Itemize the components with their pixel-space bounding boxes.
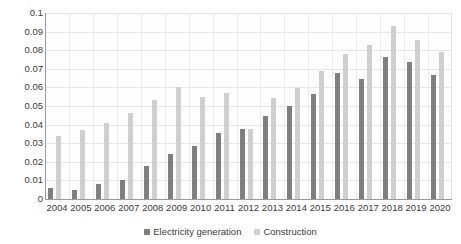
bar-chart: 0.10.090.080.070.060.050.040.030.020.010… [0,0,461,244]
bar-electricity-generation[interactable] [383,57,388,199]
bar-construction[interactable] [176,87,181,199]
bar-construction[interactable] [319,71,324,199]
bar-electricity-generation[interactable] [359,79,364,199]
bar-group [260,13,284,199]
bar-electricity-generation[interactable] [144,166,149,199]
legend-label: Electricity generation [153,226,241,237]
bar-group [165,13,189,199]
bar-electricity-generation[interactable] [216,133,221,199]
y-tick-label: 0 [1,194,43,204]
bar-construction[interactable] [439,52,444,199]
bar-group [332,13,356,199]
chart-legend: Electricity generationConstruction [0,226,461,237]
bar-electricity-generation[interactable] [263,116,268,199]
bar-construction[interactable] [104,123,109,199]
bar-group [93,13,117,199]
bar-construction[interactable] [295,88,300,199]
bar-electricity-generation[interactable] [311,94,316,199]
y-tick-label: 0.05 [1,101,43,111]
y-tick-label: 0.03 [1,138,43,148]
bar-electricity-generation[interactable] [192,146,197,199]
legend-item-construction[interactable]: Construction [254,226,316,237]
bar-group [141,13,165,199]
bar-construction[interactable] [56,136,61,199]
bar-electricity-generation[interactable] [48,188,53,199]
bar-electricity-generation[interactable] [240,129,245,199]
bar-group [237,13,261,199]
bar-construction[interactable] [200,97,205,199]
legend-swatch-icon [144,229,150,235]
bar-group [308,13,332,199]
bar-electricity-generation[interactable] [72,190,77,199]
bar-construction[interactable] [271,98,276,199]
bar-group [45,13,69,199]
y-tick-label: 0.06 [1,82,43,92]
bar-construction[interactable] [248,129,253,199]
bar-electricity-generation[interactable] [96,184,101,199]
y-tick-label: 0.07 [1,64,43,74]
bar-group [428,13,452,199]
bar-electricity-generation[interactable] [287,106,292,199]
bar-construction[interactable] [343,54,348,199]
legend-label: Construction [263,226,316,237]
legend-swatch-icon [254,229,260,235]
bar-electricity-generation[interactable] [120,180,125,199]
bar-construction[interactable] [128,113,133,199]
y-tick-label: 0.1 [1,8,43,18]
bar-group [356,13,380,199]
bar-group [117,13,141,199]
bar-construction[interactable] [224,93,229,199]
bar-group [69,13,93,199]
y-tick-label: 0.09 [1,27,43,37]
bar-construction[interactable] [152,100,157,200]
bars-layer [45,13,452,200]
bar-group [213,13,237,199]
bar-electricity-generation[interactable] [335,73,340,199]
y-tick-label: 0.02 [1,157,43,167]
bar-construction[interactable] [415,40,420,199]
y-axis: 0.10.090.080.070.060.050.040.030.020.010 [0,13,43,200]
bar-group [284,13,308,199]
bar-group [189,13,213,199]
x-tick-label: 2020 [425,202,455,214]
y-tick-label: 0.01 [1,175,43,185]
bar-construction[interactable] [80,130,85,199]
bar-group [380,13,404,199]
x-axis: 2004200520062007200820092010201120122013… [45,202,452,218]
bar-electricity-generation[interactable] [431,75,436,199]
bar-electricity-generation[interactable] [407,62,412,199]
y-tick-label: 0.04 [1,120,43,130]
legend-item-electricity-generation[interactable]: Electricity generation [144,226,241,237]
plot-area [45,13,452,200]
bar-group [404,13,428,199]
bar-construction[interactable] [391,26,396,199]
y-tick-label: 0.08 [1,45,43,55]
bar-construction[interactable] [367,45,372,199]
bar-electricity-generation[interactable] [168,154,173,199]
